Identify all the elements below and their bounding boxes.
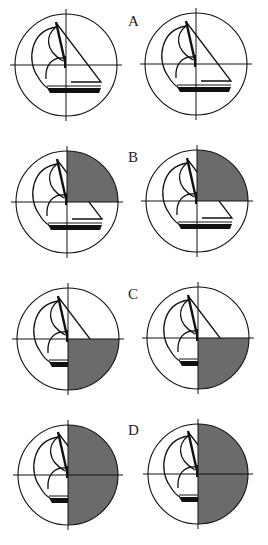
panel-b-left: [11, 146, 123, 258]
panel-d-left: [13, 420, 123, 530]
panel-d-right: [143, 419, 253, 529]
panel-a-right: [140, 8, 252, 120]
panel-a-left: [10, 9, 122, 121]
panel-c-left: [12, 283, 124, 395]
panel-c-right: [142, 282, 254, 394]
sailboat-figure: [0, 0, 268, 545]
panel-b-right: [141, 145, 253, 257]
